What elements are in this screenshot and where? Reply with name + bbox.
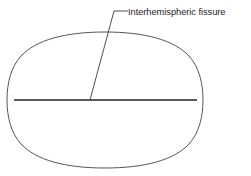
- brain-diagram-svg: Interhemispheric fissure: [0, 0, 251, 176]
- label-interhemispheric-fissure: Interhemispheric fissure: [128, 7, 226, 17]
- leader-line: [90, 11, 128, 100]
- diagram-canvas: Interhemispheric fissure: [0, 0, 251, 176]
